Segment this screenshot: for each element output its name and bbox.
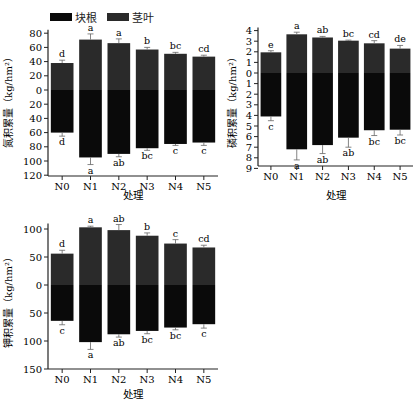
significance-letter: bc	[170, 40, 181, 51]
y-tick-label: 6	[246, 131, 252, 142]
bar-stem-leaf	[364, 43, 385, 73]
significance-letter: cd	[198, 43, 209, 54]
significance-letter: a	[294, 20, 300, 31]
significance-letter: b	[144, 221, 150, 232]
significance-letter: ab	[113, 157, 125, 168]
y-axis-title: 磷积累量（kg/hm²）	[226, 52, 238, 148]
bar-stem-leaf	[338, 41, 359, 73]
bar-root	[136, 90, 159, 148]
y-tick-label: 7	[246, 142, 252, 153]
bar-root	[312, 73, 333, 145]
significance-letter: d	[59, 238, 65, 249]
bar-stem-leaf	[164, 244, 187, 285]
y-tick-label: 3	[246, 36, 252, 47]
y-tick-label: 50	[29, 308, 42, 319]
bar-stem-leaf	[79, 40, 102, 90]
significance-letter: ab	[113, 213, 125, 224]
significance-letter: d	[59, 48, 65, 59]
x-tick-label: N5	[393, 171, 408, 182]
x-tick-label: N5	[196, 374, 211, 385]
bar-stem-leaf	[79, 227, 102, 285]
bar-root	[364, 73, 385, 130]
x-tick-label: N2	[111, 374, 126, 385]
chart-2: 01234123456789磷积累量（kg/hm²）ecN0aaN1ababN2…	[226, 20, 413, 201]
significance-letter: ab	[343, 147, 355, 158]
chart-3: 05010050100150钾积累量（kg/hm²）dcN0aaN1ababN2…	[2, 213, 218, 400]
y-tick-label: 80	[29, 141, 42, 152]
x-tick-label: N2	[315, 171, 330, 182]
bar-root	[261, 73, 282, 116]
significance-letter: bc	[170, 330, 181, 341]
significance-letter: bc	[141, 150, 152, 161]
bar-stem-leaf	[390, 49, 411, 73]
x-axis-title: 处理	[123, 189, 144, 201]
bar-stem-leaf	[51, 254, 74, 285]
y-tick-label: 5	[246, 121, 252, 132]
significance-letter: a	[88, 214, 94, 225]
bar-root	[390, 73, 411, 130]
bar-stem-leaf	[312, 37, 333, 73]
x-axis-title: 处理	[123, 388, 144, 400]
x-tick-label: N4	[367, 171, 382, 182]
bar-root	[164, 285, 187, 328]
significance-letter: bc	[369, 136, 380, 147]
x-tick-label: N3	[341, 171, 356, 182]
significance-letter: bc	[343, 28, 354, 39]
y-tick-label: 0	[36, 280, 42, 291]
bar-root	[79, 90, 102, 157]
bar-stem-leaf	[108, 230, 131, 285]
y-tick-label: 2	[246, 89, 252, 100]
significance-letter: bc	[141, 334, 152, 345]
bar-stem-leaf	[193, 247, 216, 285]
significance-letter: c	[201, 145, 206, 156]
bar-root	[79, 285, 102, 342]
x-tick-label: N5	[196, 181, 211, 192]
bar-stem-leaf	[136, 236, 159, 285]
significance-letter: c	[173, 145, 178, 156]
y-tick-label: 20	[29, 99, 42, 110]
significance-letter: c	[60, 325, 65, 336]
y-tick-label: 9	[246, 163, 252, 174]
bar-stem-leaf	[51, 63, 74, 90]
y-tick-label: 40	[29, 56, 42, 67]
significance-letter: de	[394, 33, 406, 44]
bar-root	[193, 285, 216, 324]
significance-letter: e	[268, 39, 274, 50]
y-tick-label: 1	[246, 57, 252, 68]
significance-letter: c	[173, 228, 178, 239]
x-tick-label: N0	[55, 374, 70, 385]
y-tick-label: 100	[23, 224, 42, 235]
bar-root	[108, 285, 131, 334]
bar-root	[193, 90, 216, 143]
bar-root	[51, 285, 74, 321]
y-tick-label: 120	[23, 170, 42, 181]
charts-canvas: 02040608020406080100120氮积累量（kg/hm²）ddN0a…	[0, 0, 419, 409]
bar-stem-leaf	[193, 57, 216, 90]
y-tick-label: 40	[29, 113, 42, 124]
x-tick-label: N1	[83, 181, 98, 192]
significance-letter: cd	[369, 29, 380, 40]
x-tick-label: N4	[168, 181, 183, 192]
bar-root	[108, 90, 131, 154]
chart-1: 02040608020406080100120氮积累量（kg/hm²）ddN0a…	[2, 22, 218, 201]
y-tick-label: 60	[29, 42, 42, 53]
significance-letter: ab	[317, 24, 329, 35]
x-tick-label: N1	[289, 171, 304, 182]
y-tick-label: 20	[29, 70, 42, 81]
bar-root	[136, 285, 159, 331]
y-tick-label: 2	[246, 46, 252, 57]
y-tick-label: 0	[36, 85, 42, 96]
significance-letter: bc	[394, 135, 405, 146]
significance-letter: cd	[198, 233, 209, 244]
significance-letter: a	[116, 27, 122, 38]
x-tick-label: N1	[83, 374, 98, 385]
bar-stem-leaf	[164, 54, 187, 90]
y-tick-label: 3	[246, 99, 252, 110]
x-tick-label: N3	[140, 374, 155, 385]
bar-root	[164, 90, 187, 144]
significance-letter: c	[268, 121, 273, 132]
y-axis-title: 钾积累量（kg/hm²）	[2, 252, 14, 348]
x-tick-label: N0	[55, 181, 70, 192]
y-tick-label: 4	[246, 110, 252, 121]
significance-letter: c	[201, 328, 206, 339]
